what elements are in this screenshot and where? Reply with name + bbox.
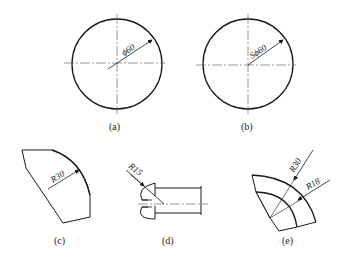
figure-caption: (a) [109,121,120,133]
dimension-text: R15 [126,160,145,178]
screw-head [141,183,155,219]
radius-line [256,192,270,218]
figure-caption: (d) [162,235,174,247]
sector-outline [22,150,90,223]
dimensioning-diagram: ϕ60 (a) Sϕ60 (b) R30 (c) R15 (d) [0,0,346,262]
screw-shank [155,186,201,215]
figure-caption: (b) [241,121,253,133]
dimension-text: ϕ60 [120,42,137,58]
figure-caption: (c) [54,235,65,247]
dimension-text-r30: R30 [287,156,304,175]
figure-a: ϕ60 (a) [64,14,165,133]
dimension-text: R30 [48,168,67,185]
figure-caption: (e) [282,235,293,247]
figure-c: R30 (c) [22,150,90,247]
inner-arc [256,192,297,227]
figure-b: Sϕ60 (b) [196,14,296,133]
radius-line [270,180,294,218]
dimension-text-r18: R18 [303,176,322,193]
figure-d: R15 (d) [126,160,208,247]
figure-e: R30 R18 (e) [252,150,330,247]
